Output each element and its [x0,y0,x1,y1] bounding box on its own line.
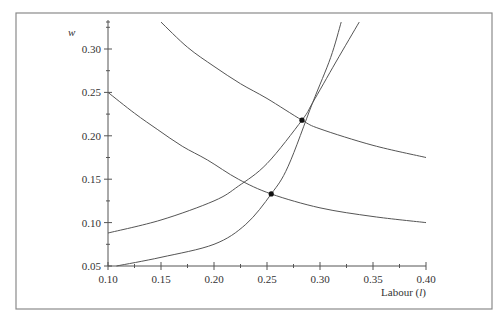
chart: 0.100.150.200.250.300.350.40 0.050.100.1… [0,0,503,323]
upper-equilibrium-point [299,118,304,123]
y-tick-label: 0.10 [82,217,102,229]
y-tick-label: 0.30 [82,43,102,55]
curves [108,22,426,266]
equilibrium-points [269,118,305,197]
x-axis-label: Labour (l) [381,286,426,299]
x-tick-label: 0.20 [204,273,224,285]
y-tick-label: 0.20 [82,130,102,142]
axes: 0.100.150.200.250.300.350.40 0.050.100.1… [82,20,436,285]
x-tick-label: 0.30 [310,273,330,285]
lower-demand-curve [108,92,426,222]
y-tick-label: 0.05 [82,260,102,272]
lower-supply-curve [116,22,341,266]
y-tick-label: 0.15 [82,173,102,185]
lower-equilibrium-point [269,191,274,196]
x-tick-label: 0.10 [98,273,118,285]
y-tick-label: 0.25 [82,86,102,98]
x-tick-label: 0.35 [363,273,383,285]
upper-demand-curve [161,22,426,157]
x-ticks: 0.100.150.200.250.300.350.40 [98,262,436,285]
x-tick-label: 0.40 [416,273,436,285]
x-tick-label: 0.25 [257,273,277,285]
x-tick-label: 0.15 [151,273,171,285]
upper-supply-curve [108,22,359,233]
y-ticks: 0.050.100.150.200.250.30 [82,22,112,272]
y-axis-label: w [68,26,76,38]
